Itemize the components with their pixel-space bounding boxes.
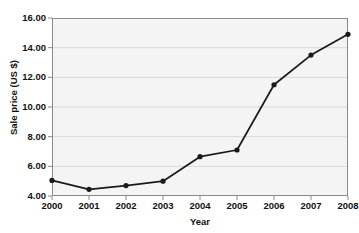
data-point-marker bbox=[86, 187, 91, 192]
chart-canvas bbox=[0, 0, 359, 233]
data-point-markers bbox=[49, 32, 350, 192]
data-point-marker bbox=[160, 179, 165, 184]
data-point-marker bbox=[271, 82, 276, 87]
data-point-marker bbox=[234, 147, 239, 152]
data-point-marker bbox=[123, 183, 128, 188]
x-axis-tick-marks bbox=[52, 196, 348, 200]
data-point-marker bbox=[197, 154, 202, 159]
data-point-marker bbox=[49, 178, 54, 183]
data-point-marker bbox=[308, 52, 313, 57]
chart-figure: 16.0014.0012.0010.008.006.004.00 2000200… bbox=[0, 0, 359, 233]
data-point-marker bbox=[345, 32, 350, 37]
y-axis-tick-marks bbox=[48, 18, 52, 196]
gridlines bbox=[53, 48, 347, 167]
